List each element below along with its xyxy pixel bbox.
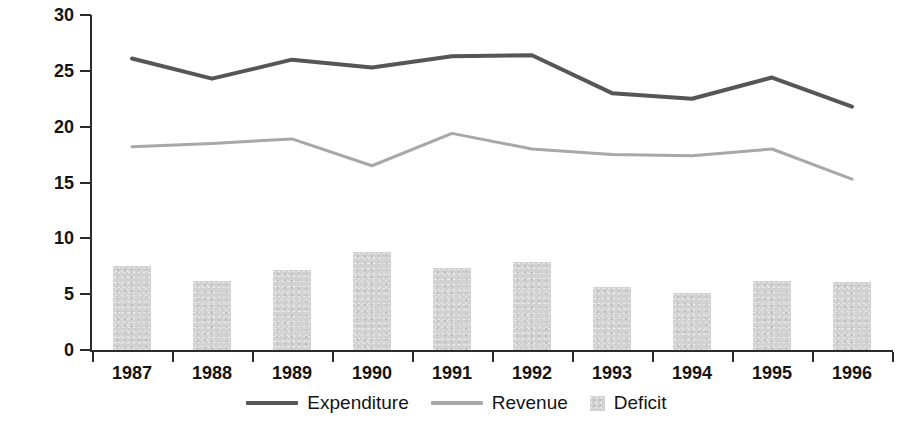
series-line-revenue — [132, 133, 852, 179]
legend-label: Expenditure — [307, 392, 408, 414]
legend-swatch-icon — [590, 396, 605, 411]
y-axis-tick-label: 30 — [30, 6, 74, 24]
y-axis-tick — [80, 349, 91, 351]
y-axis-tick-label: 25 — [30, 62, 74, 80]
legend-label: Deficit — [614, 392, 667, 414]
y-axis-tick — [80, 126, 91, 128]
x-axis-tick — [412, 352, 414, 362]
bar-1989 — [273, 270, 311, 350]
x-axis-tick — [732, 352, 734, 362]
bar-1996 — [833, 282, 871, 350]
y-axis-tick — [80, 237, 91, 239]
x-axis-tick-label: 1990 — [327, 363, 417, 384]
x-axis-tick-label: 1995 — [727, 363, 817, 384]
x-axis-tick-label: 1988 — [167, 363, 257, 384]
chart-figure: % of GDP 051015202530 198719881989199019… — [0, 0, 913, 425]
x-axis-tick — [332, 352, 334, 362]
x-axis-tick — [92, 352, 94, 362]
x-axis-tick — [172, 352, 174, 362]
bar-1992 — [513, 262, 551, 350]
y-axis-tick-label: 0 — [30, 341, 74, 359]
legend-item-revenue[interactable]: Revenue — [431, 392, 568, 414]
legend-line-icon — [431, 401, 483, 405]
y-axis-tick-label: 20 — [30, 118, 74, 136]
legend-label: Revenue — [492, 392, 568, 414]
x-axis-tick — [252, 352, 254, 362]
y-axis-tick-label: 10 — [30, 229, 74, 247]
x-axis-tick — [572, 352, 574, 362]
y-axis-tick-label: 5 — [30, 285, 74, 303]
x-axis-tick — [892, 352, 894, 362]
y-axis-tick — [80, 14, 91, 16]
chart-legend: ExpenditureRevenueDeficit — [0, 392, 913, 414]
bar-1987 — [113, 266, 151, 350]
bar-1993 — [593, 287, 631, 350]
y-axis-tick — [80, 70, 91, 72]
x-axis-tick-label: 1994 — [647, 363, 737, 384]
bar-1990 — [353, 252, 391, 350]
series-line-expenditure — [132, 55, 852, 106]
y-axis-tick-label: 15 — [30, 174, 74, 192]
y-axis-tick — [80, 293, 91, 295]
legend-item-expenditure[interactable]: Expenditure — [246, 392, 408, 414]
x-axis-tick — [492, 352, 494, 362]
plot-area — [92, 15, 892, 350]
x-axis-tick-label: 1992 — [487, 363, 577, 384]
x-axis-tick-label: 1987 — [87, 363, 177, 384]
bar-1991 — [433, 268, 471, 350]
x-axis-tick-label: 1991 — [407, 363, 497, 384]
x-axis-tick-label: 1989 — [247, 363, 337, 384]
x-axis-tick-label: 1993 — [567, 363, 657, 384]
y-axis-tick — [80, 182, 91, 184]
x-axis-tick — [812, 352, 814, 362]
legend-item-deficit[interactable]: Deficit — [590, 392, 667, 414]
x-axis-tick-label: 1996 — [807, 363, 897, 384]
bar-1988 — [193, 281, 231, 350]
legend-line-icon — [246, 401, 298, 405]
x-axis-tick — [652, 352, 654, 362]
bar-1994 — [673, 293, 711, 350]
bar-1995 — [753, 281, 791, 350]
